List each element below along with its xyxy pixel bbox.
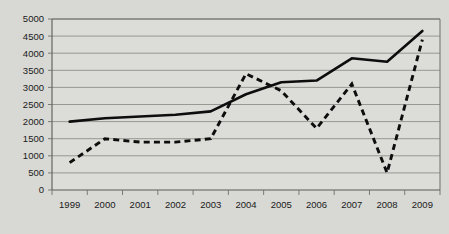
- y-tick-label: 0: [39, 184, 44, 195]
- x-tick-label: 2003: [200, 199, 221, 210]
- x-tick-label: 2009: [412, 199, 433, 210]
- chart-canvas: 0500100015002000250030003500400045005000…: [0, 0, 449, 234]
- x-tick-marks-group: [52, 190, 440, 195]
- y-tick-label: 2500: [23, 99, 44, 110]
- x-tick-label: 2004: [235, 199, 256, 210]
- y-tick-label: 3000: [23, 82, 44, 93]
- y-tick-label: 4500: [23, 31, 44, 42]
- y-tick-label: 5000: [23, 13, 44, 24]
- x-tick-label: 2005: [271, 199, 292, 210]
- x-tick-label: 1999: [59, 199, 80, 210]
- x-tick-label: 2008: [377, 199, 398, 210]
- y-tick-label: 1000: [23, 150, 44, 161]
- x-tick-label: 2006: [306, 199, 327, 210]
- y-tick-label: 3500: [23, 65, 44, 76]
- y-tick-label: 2000: [23, 116, 44, 127]
- x-tick-labels-group: 1999200020012002200320042005200620072008…: [59, 199, 433, 210]
- x-tick-label: 2002: [165, 199, 186, 210]
- y-tick-label: 1500: [23, 133, 44, 144]
- y-tick-marks-group: [48, 19, 52, 190]
- y-tick-label: 500: [28, 167, 44, 178]
- y-tick-label: 4000: [23, 48, 44, 59]
- x-tick-label: 2007: [341, 199, 362, 210]
- x-tick-label: 2000: [94, 199, 115, 210]
- x-tick-label: 2001: [130, 199, 151, 210]
- y-tick-labels-group: 0500100015002000250030003500400045005000: [23, 13, 44, 195]
- line-chart: 0500100015002000250030003500400045005000…: [0, 0, 449, 234]
